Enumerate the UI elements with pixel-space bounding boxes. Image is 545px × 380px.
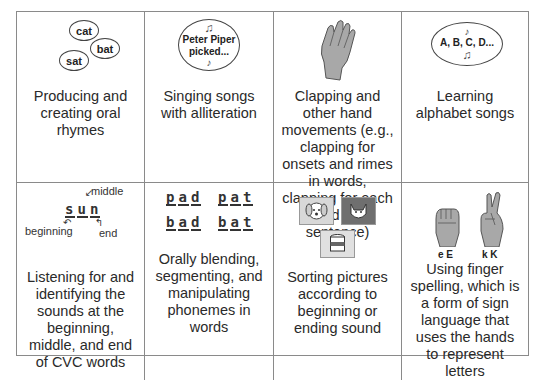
song-bubble-illustration: ♫ Peter Piper picked... ♪ [145,12,273,84]
caption: Producing and creating oral rhymes [17,88,144,139]
label-middle: middle [91,185,123,197]
word-bat: bat [217,214,254,231]
label-beginning: beginning [25,225,73,237]
sign-k-label: k K [482,249,498,260]
phoneme-words-illustration: pad pat bad bat [145,183,273,269]
cell-cvc-sounds: middle ↙ sun ↶ ↰ beginning end Listening… [17,183,145,380]
word-bad: bad [165,214,202,231]
caption: Using finger spelling, which is a form o… [402,261,528,380]
cell-sorting-pictures: Sorting pictures according to beginning … [274,183,402,380]
clapping-hand-icon [312,18,362,82]
bubble-cat: cat [69,20,99,41]
word-pad: pad [165,189,202,206]
music-note-icon: ♪ [207,58,212,68]
cvc-diagram-illustration: middle ↙ sun ↶ ↰ beginning end [17,183,144,269]
cell-alphabet-songs: ♪ A, B, C, D... ♫ Learning alphabet song… [402,12,528,183]
music-note-icon: ♫ [463,49,472,61]
bubble-sat: sat [59,50,89,71]
word-pat: pat [217,189,254,206]
cell-finger-spelling: e E k K Using finger spelling, which is … [402,183,528,380]
sign-e-hand-icon [432,203,462,247]
caption: Singing songs with alliteration [145,88,273,122]
arrow-middle-icon: ↙ [85,187,93,198]
cat-picture-icon [341,197,376,225]
sign-e-label: e E [438,249,453,260]
rhyme-bubbles-illustration: cat bat sat [17,12,144,84]
cell-phonemes: pad pat bad bat Orally blending, segment… [145,183,274,380]
clapping-hand-illustration [274,12,401,84]
song-speech-bubble: ♫ Peter Piper picked... ♪ [178,19,240,71]
cvc-word: sun [64,201,101,218]
caption: Listening for and identifying the sounds… [17,269,144,371]
bubble-bat: bat [90,38,120,59]
picture-cards-illustration [274,183,401,269]
sign-k-hand-icon [477,191,507,247]
cell-clapping: Clapping and other hand movements (e.g.,… [274,12,402,183]
music-note-icon: ♫ [205,22,214,34]
can-picture-icon [320,230,355,258]
alphabet-bubble-illustration: ♪ A, B, C, D... ♫ [402,12,528,84]
activities-table: cat bat sat Producing and creating oral … [16,11,529,356]
dog-picture-icon [299,197,334,225]
label-end: end [99,227,117,239]
alphabet-speech-bubble: ♪ A, B, C, D... ♫ [431,22,503,66]
caption: Sorting pictures according to beginning … [274,269,401,337]
finger-spelling-illustration: e E k K [402,183,528,251]
cell-alliteration-songs: ♫ Peter Piper picked... ♪ Singing songs … [145,12,274,183]
cell-oral-rhymes: cat bat sat Producing and creating oral … [17,12,145,183]
music-note-icon: ♪ [465,27,470,37]
caption: Learning alphabet songs [402,88,528,122]
